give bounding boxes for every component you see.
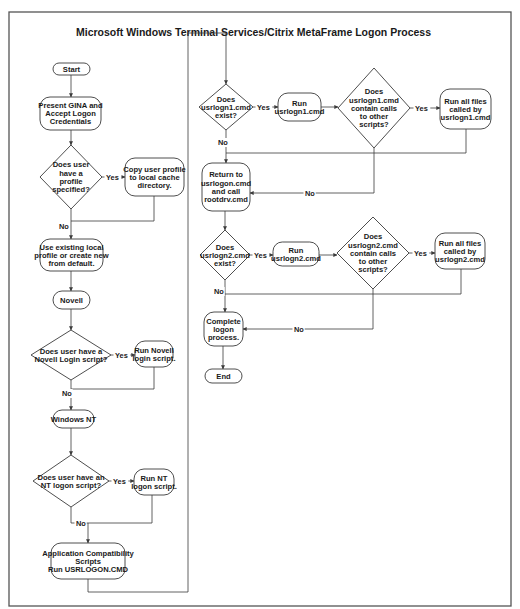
node-run-usrlogn1: Runusrlogn1.cmd (275, 93, 325, 121)
connector-label: Yes (254, 251, 267, 260)
diagram-title: Microsoft Windows Terminal Services/Citr… (76, 26, 431, 38)
node-return-usrlogon: Return tousrlogon.cmdand callrootdrv.cmd (201, 163, 252, 211)
node-usrlogn2-exist: Doesusrlogn2.cmdexist? (200, 230, 250, 280)
node-text: NT logon script? (41, 481, 102, 490)
connector-label: No (294, 325, 304, 334)
node-text: Start (63, 65, 81, 74)
connector-label: Yes (115, 351, 128, 360)
connector-label: Yes (113, 477, 126, 486)
node-novell-script-q: Does user have aNovell Login script? (31, 330, 111, 380)
node-copy-profile: Copy user profileto local cachedirectory… (123, 158, 185, 196)
connector-arrow (71, 196, 154, 221)
node-use-existing: Use existing localprofile or create newf… (34, 239, 108, 271)
connector-label: Yes (257, 103, 270, 112)
node-text: usrlogn1.cmd (275, 107, 325, 116)
node-text: scripts? (358, 265, 388, 274)
node-layer: StartPresent GINA andAccept LogonCredent… (31, 63, 491, 579)
node-novell: Novell (53, 291, 90, 309)
connector-label: No (76, 519, 86, 528)
connector-label: No (214, 287, 224, 296)
connector-arrow (226, 129, 466, 153)
node-text: logon script. (131, 482, 177, 491)
node-text: Novell (60, 296, 83, 305)
node-run-all-1: Run all filescalled byusrlogn1.cmd (440, 89, 491, 129)
node-text: Novell Login script? (35, 355, 108, 364)
node-windows-nt: Windows NT (51, 410, 97, 428)
node-usrlogn1-exist: Doesusrlogn1.cmdexist? (199, 84, 253, 130)
node-end: End (205, 369, 242, 383)
node-text: from default. (49, 259, 95, 268)
node-text: directory. (137, 181, 171, 190)
node-usrlogn1-calls: Doesusrlogn1.cmdcontain callsto otherscr… (338, 68, 410, 148)
node-app-compat: Application CompatibilityScriptsRun USRL… (42, 543, 134, 579)
connector-label: Yes (414, 249, 427, 258)
connector-label: No (62, 389, 72, 398)
connector-arrow (88, 495, 152, 523)
node-run-nt: Run NTlogon script. (131, 469, 177, 495)
connector-label: No (305, 189, 315, 198)
flowchart-canvas: Microsoft Windows Terminal Services/Citr… (0, 0, 520, 609)
node-text: Run USRLOGON.CMD (48, 565, 129, 574)
node-text: specified? (52, 185, 90, 194)
connector-arrow (225, 269, 461, 294)
node-nt-script-q: Does user have anNT logon script? (33, 455, 109, 507)
node-text: usrlogn2.cmd (271, 254, 321, 263)
node-text: exist? (214, 259, 236, 268)
node-text: exist? (215, 111, 237, 120)
node-text: usrlogn2.cmd (435, 255, 485, 264)
node-text: End (216, 372, 231, 381)
node-start: Start (53, 63, 90, 75)
connector-arrow (243, 289, 373, 329)
node-text: Credentials (50, 117, 91, 126)
node-profile-specified: Does userhave aprofilespecified? (40, 145, 102, 209)
node-complete-logon: Completelogonprocess. (204, 312, 243, 346)
node-text: process. (208, 333, 239, 342)
node-present-gina: Present GINA andAccept LogonCredentials (38, 97, 103, 130)
node-text: Windows NT (51, 415, 97, 424)
node-run-usrlogn2: Runusrlogn2.cmd (271, 242, 321, 266)
connector-label: Yes (415, 104, 428, 113)
node-usrlogn2-calls: Doesusrlogn2.cmdcontain callsto otherscr… (337, 217, 409, 289)
connector-arrow (250, 148, 374, 193)
connector-label: Yes (106, 173, 119, 182)
node-text: usrlogn1.cmd (441, 113, 491, 122)
connector-label: No (59, 222, 69, 231)
node-text: rootdrv.cmd (204, 195, 248, 204)
node-text: scripts? (359, 120, 389, 129)
node-run-all-2: Run all filescalled byusrlogn2.cmd (435, 233, 485, 269)
connector-arrow (88, 33, 226, 592)
node-run-novell: Run Novelllogin script. (132, 341, 175, 367)
connector-layer: YesNoYesNoYesNoYesYesNoNoYesYesNoNo (58, 33, 467, 592)
connector-label: No (218, 138, 228, 147)
node-text: login script. (132, 354, 175, 363)
